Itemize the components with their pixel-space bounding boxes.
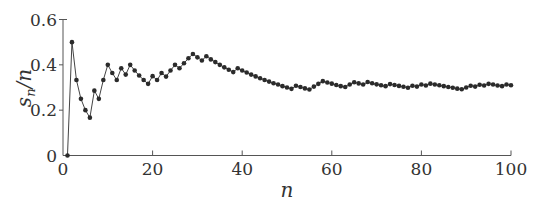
data-point [235,66,240,71]
data-point [312,84,317,89]
data-series [65,40,513,158]
axes: 020406080100 00.20.40.6 [30,10,527,179]
data-point [428,81,433,86]
data-point [106,63,111,68]
data-point [442,84,447,89]
y-tick-label: 0 [46,146,57,166]
data-point [450,85,455,90]
data-point [119,66,124,71]
y-title-main: s [12,97,36,107]
data-point [401,85,406,90]
data-point [379,83,384,88]
y-title-sub: n [23,88,38,96]
data-point [114,78,119,83]
data-point [419,82,424,87]
data-point [253,74,258,79]
data-point [289,87,294,92]
data-point [383,84,388,89]
data-point [352,80,357,85]
data-point [446,85,451,90]
data-point [325,80,330,85]
data-point [164,74,169,79]
data-point [177,66,182,71]
data-point [226,68,231,73]
data-point [491,82,496,87]
y-tick-label: 0.6 [30,10,57,30]
data-point [486,82,491,87]
data-point [338,84,343,89]
data-point [495,83,500,88]
data-point [150,74,155,79]
data-point [173,63,178,68]
data-point [477,82,482,87]
data-point [209,57,214,62]
series-line [67,42,511,155]
data-point [65,153,70,158]
y-title-rest: /n [12,69,36,91]
x-tick-label: 20 [142,159,164,179]
data-point [415,84,420,89]
data-point [249,72,254,77]
data-point [424,83,429,88]
data-point [213,60,218,65]
data-point [347,82,352,87]
data-point [285,85,290,90]
data-point [155,78,160,83]
chart: 020406080100 00.20.40.6 n sn/n [0,0,534,208]
data-point [397,84,402,89]
data-point [222,65,227,70]
data-point [388,82,393,87]
y-axis-title: sn/n [12,69,38,107]
data-point [146,82,151,87]
data-point [459,87,464,92]
data-point [374,82,379,87]
data-point [244,70,249,75]
data-point [294,83,299,88]
data-point [137,73,142,78]
data-point [365,80,370,85]
data-point [334,83,339,88]
data-point [123,72,128,77]
data-point [455,86,460,91]
data-point [343,85,348,90]
data-point [262,78,267,83]
data-point [195,55,200,60]
data-point [74,78,79,83]
x-ticks: 020406080100 [58,151,528,179]
data-point [500,84,505,89]
data-point [88,115,93,120]
data-point [200,58,205,63]
data-point [182,61,187,66]
data-point [204,54,209,59]
data-point [330,81,335,86]
data-point [509,83,514,88]
data-point [321,79,326,84]
data-point [92,88,97,93]
x-tick-label: 80 [411,159,433,179]
data-point [298,85,303,90]
data-point [392,83,397,88]
data-point [110,71,115,76]
data-point [433,82,438,87]
data-point [70,40,75,45]
data-point [303,86,308,91]
data-point [128,63,133,68]
data-point [186,56,191,61]
data-point [83,108,88,113]
data-point [79,97,84,102]
data-point [276,82,281,87]
data-point [406,85,411,90]
data-point [191,52,196,57]
x-tick-label: 40 [231,159,253,179]
data-point [437,83,442,88]
data-point [258,76,263,81]
data-point [473,84,478,89]
data-point [240,68,245,73]
data-point [280,84,285,89]
data-point [356,81,361,86]
data-point [482,83,487,88]
data-point [218,63,223,68]
data-point [271,81,276,86]
x-axis-title: n [281,178,294,202]
data-point [101,78,106,83]
